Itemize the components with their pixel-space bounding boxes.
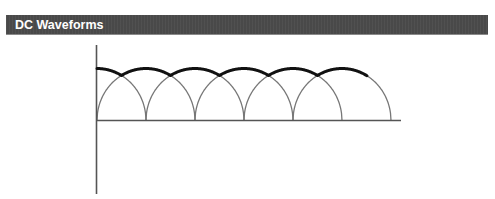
rectified-envelope-line bbox=[97, 69, 367, 76]
dc-waveform-diagram bbox=[0, 0, 495, 199]
